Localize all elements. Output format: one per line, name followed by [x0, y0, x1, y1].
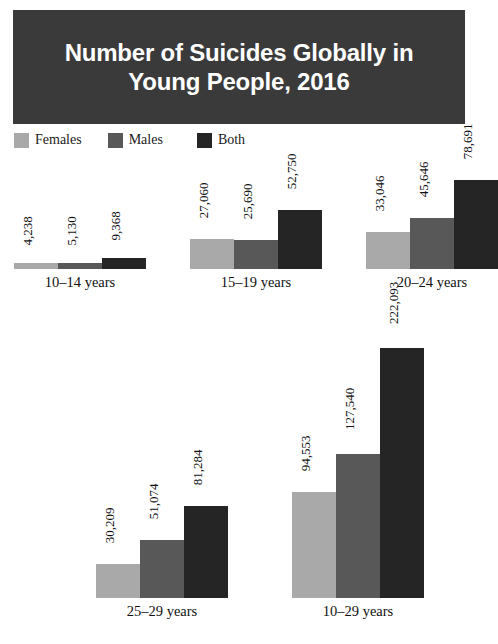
bar-females[interactable]: 30,209: [96, 564, 140, 598]
bar-males[interactable]: 51,074: [140, 540, 184, 598]
bar-females[interactable]: 94,553: [292, 492, 336, 598]
bar-males[interactable]: 127,540: [336, 454, 380, 598]
bar-group-bars: 30,20951,07481,284: [96, 506, 228, 598]
bar-group-label: 25–29 years: [127, 603, 197, 620]
bar-rect-males: [336, 454, 380, 598]
bar-group-row-2: 30,20951,07481,28425–29 years94,553127,5…: [96, 0, 484, 620]
bar-group: 30,20951,07481,28425–29 years: [96, 506, 228, 620]
bar-rect-females: [292, 492, 336, 598]
bar-rect-both: [380, 348, 424, 598]
bar-group-label: 10–29 years: [323, 603, 393, 620]
bar-rect-females: [96, 564, 140, 598]
bar-group: 94,553127,540222,09310–29 years: [292, 348, 424, 620]
bar-rect-both: [184, 506, 228, 598]
bar-females[interactable]: 4,238: [14, 263, 58, 269]
bar-rect-males: [140, 540, 184, 598]
bar-rect-females: [14, 263, 58, 269]
bar-both[interactable]: 81,284: [184, 506, 228, 598]
bar-both[interactable]: 222,093: [380, 348, 424, 598]
bar-group-bars: 94,553127,540222,093: [292, 348, 424, 598]
